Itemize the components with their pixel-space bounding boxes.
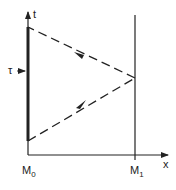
t-axis-label: t xyxy=(33,9,36,20)
diagram-canvas xyxy=(0,0,176,190)
signal-return xyxy=(28,27,135,78)
arrow-out-icon xyxy=(76,100,86,109)
signal-out xyxy=(28,78,135,141)
m0-label: M0 xyxy=(22,165,36,176)
m1-label: M1 xyxy=(130,165,144,176)
m0-sub: 0 xyxy=(31,170,35,179)
tau-label: τ xyxy=(8,65,12,76)
x-axis-label: x xyxy=(163,159,169,170)
m1-sub: 1 xyxy=(139,170,143,179)
spacetime-diagram: t x τ M0 M1 xyxy=(0,0,176,190)
m1-base: M xyxy=(130,164,139,176)
m0-base: M xyxy=(22,164,31,176)
